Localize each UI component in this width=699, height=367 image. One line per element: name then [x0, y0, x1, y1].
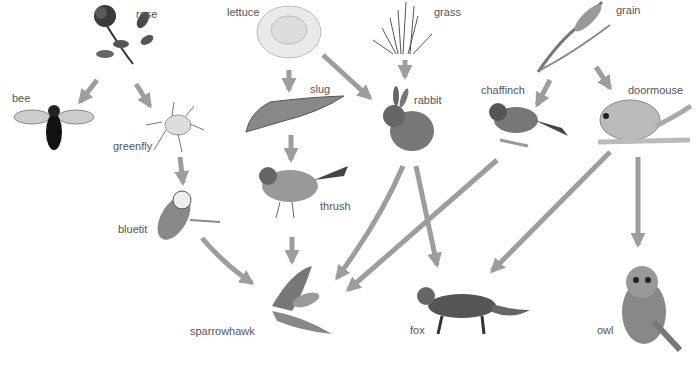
sparrowhawk-illustration [262, 266, 336, 338]
bluetit-illustration [142, 188, 222, 250]
label-sparrowhawk: sparrowhawk [190, 325, 255, 337]
arrow-doormouse-fox [492, 152, 610, 271]
owl-illustration [614, 262, 684, 356]
label-rabbit: rabbit [414, 94, 442, 106]
label-chaffinch: chaffinch [481, 84, 525, 96]
grain-illustration [530, 0, 620, 75]
slug-illustration [240, 92, 346, 137]
label-grass: grass [434, 6, 461, 18]
label-greenfly: greenfly [113, 140, 152, 152]
label-lettuce: lettuce [227, 6, 259, 18]
grass-illustration [368, 0, 438, 56]
label-owl: owl [597, 324, 614, 336]
fox-illustration [412, 278, 532, 338]
chaffinch-illustration [484, 98, 570, 150]
label-fox: fox [410, 324, 425, 336]
label-grain: grain [616, 4, 640, 16]
doormouse-illustration [596, 96, 696, 151]
label-rose: rose [136, 8, 157, 20]
bee-illustration [12, 97, 96, 157]
label-doormouse: doormouse [628, 84, 683, 96]
lettuce-illustration [254, 2, 324, 60]
label-thrush: thrush [320, 200, 351, 212]
arrow-greenfly-bluetit [180, 157, 183, 183]
thrush-illustration [254, 162, 350, 222]
label-bee: bee [12, 92, 30, 104]
label-slug: slug [310, 83, 330, 95]
label-bluetit: bluetit [118, 223, 147, 235]
